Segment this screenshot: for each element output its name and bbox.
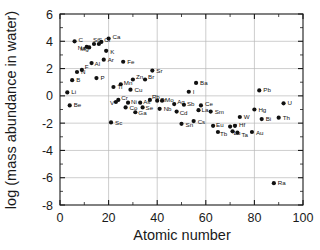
data-point: Pb [257,86,271,93]
point-label: U [288,99,292,106]
point-label: Sb [187,100,195,107]
point-marker [158,107,162,111]
data-point: Sc [109,119,122,126]
point-marker [277,116,281,120]
point-label: Be [74,101,82,108]
point-label: Nb [164,105,172,112]
point-label: Ba [200,79,208,86]
point-label: Al [95,60,101,67]
data-point: Nb [158,105,173,112]
data-point: Eu [211,121,224,128]
point-label: W [244,113,250,120]
point-marker [94,76,98,80]
point-label: Ra [278,179,286,186]
point-marker [70,78,74,82]
point-label: Fe [127,58,135,65]
point-marker [233,124,237,128]
point-marker [199,103,203,107]
data-point: Cs [192,118,206,125]
point-label: Eu [216,121,224,128]
point-marker [187,90,191,94]
y-tick-label: -4 [42,144,53,158]
point-label: Hf [239,121,245,128]
point-label: Cs [198,118,206,125]
point-label: Ar [108,56,114,63]
data-point: I [187,88,195,95]
point-marker [194,81,198,85]
point-label: Au [256,129,264,136]
data-point: Cd [175,109,189,116]
point-marker [160,99,164,103]
data-point: Tb [216,130,228,137]
data-point: Ba [194,79,208,86]
point-marker [175,109,179,113]
point-marker [211,124,215,128]
y-tick-labels: 6420-2-4-6-8 [42,8,53,213]
plot-area: 020406080100 6420-2-4-6-8 LiBeBCNFNaMgAl… [0,0,320,250]
data-point: Li [65,88,76,95]
x-tick-label: 40 [150,211,164,225]
y-tick-label: -2 [42,117,53,131]
data-point: Sm [209,108,224,115]
point-label: Tb [220,130,228,137]
point-label: Ta [241,131,248,138]
point-label: Br [148,73,154,80]
y-tick-label: 2 [46,62,53,76]
point-label: C [79,36,84,43]
data-point: Ar [102,56,114,63]
point-marker [75,70,79,74]
data-point: Ra [272,179,287,186]
point-marker [89,61,93,65]
point-marker [72,39,76,43]
point-label: P [100,74,104,81]
data-point: Bi [260,115,272,122]
data-point: C [72,36,83,43]
data-point: Al [89,60,100,67]
y-tick-label: -8 [42,199,53,213]
point-label: Mg [80,45,89,52]
point-label: Cr [121,94,128,101]
point-marker [150,69,154,73]
data-point: U [281,99,292,106]
point-label: B [76,76,80,83]
y-tick-label: 6 [46,8,53,22]
point-label: Ce [205,100,213,107]
point-marker [143,77,147,81]
x-tick-label: 100 [293,211,314,225]
point-marker [196,108,200,112]
point-marker [65,90,69,94]
data-point: Ta [235,131,248,138]
data-point: Sn [179,121,193,128]
point-marker [119,82,123,86]
data-points: LiBeBCNFNaMgAlSiPSClArKCaScTiVCrMnFeCoNi… [65,33,292,187]
data-point: Br [143,73,154,81]
point-marker [272,181,276,185]
point-label: Sc [115,119,122,126]
point-marker [141,105,145,109]
point-marker [260,117,264,121]
point-marker [121,60,125,64]
y-axis-title: log (mass abundance in water) [3,11,19,209]
data-point: W [238,113,250,120]
point-marker [80,68,84,72]
data-point: K [104,48,115,55]
y-tick-label: 0 [46,89,53,103]
point-marker [238,115,242,119]
point-marker [68,103,72,107]
data-point: Mn [119,79,133,86]
point-label: Bi [266,115,272,122]
point-marker [182,103,186,107]
point-marker [109,120,113,124]
point-label: Th [283,114,291,121]
y-tick-label: 4 [46,35,53,49]
x-tick-label: 80 [247,211,261,225]
x-tick-label: 60 [199,211,213,225]
point-marker [116,98,120,102]
y-tick-label: -6 [42,171,53,185]
data-point: B [70,76,80,83]
point-label: K [110,48,115,55]
point-marker [228,124,232,128]
data-point: P [94,74,104,81]
scatter-chart: 020406080100 6420-2-4-6-8 LiBeBCNFNaMgAl… [0,0,320,250]
point-marker [257,88,261,92]
